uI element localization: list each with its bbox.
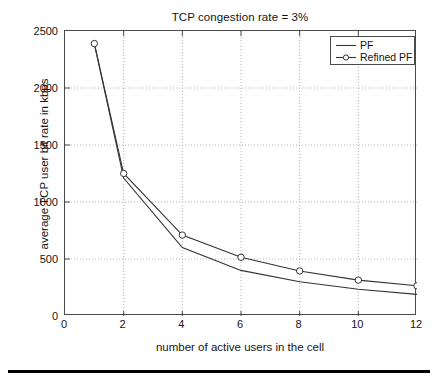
chart-title: TCP congestion rate = 3%: [64, 11, 416, 23]
data-point-marker: [91, 40, 97, 46]
x-axis-label: number of active users in the cell: [64, 341, 416, 353]
y-axis-ticks: [65, 88, 70, 259]
data-point-marker: [414, 283, 417, 289]
data-point-marker: [179, 232, 185, 238]
y-tick-2500: 2500: [34, 26, 58, 37]
legend-line-circle-icon: [334, 52, 358, 63]
data-point-marker: [355, 277, 361, 283]
data-point-marker: [120, 170, 126, 176]
legend-line-icon: [334, 40, 358, 51]
grid-horizontal: [65, 88, 417, 259]
y-tick-1500: 1500: [34, 140, 58, 151]
x-tick-0: 0: [49, 319, 79, 330]
x-tick-2: 2: [108, 319, 138, 330]
legend-entry-pf: PF: [334, 39, 411, 51]
grid-vertical: [124, 31, 359, 316]
y-tick-1000: 1000: [34, 197, 58, 208]
figure-canvas: TCP congestion rate = 3% average TCP use…: [0, 0, 438, 384]
data-point-marker: [296, 268, 302, 274]
y-tick-500: 500: [40, 254, 58, 265]
data-point-marker: [238, 254, 244, 260]
legend-label-refined-pf: Refined PF: [358, 52, 413, 63]
legend-label-pf: PF: [358, 40, 373, 51]
series-line-pf: [94, 44, 417, 295]
plot-svg: [65, 31, 417, 316]
y-tick-2000: 2000: [34, 83, 58, 94]
plot-area: [64, 30, 416, 315]
x-axis-tick-labels: 0 2 4 6 8 10 12: [64, 319, 416, 335]
x-tick-10: 10: [342, 319, 372, 330]
x-tick-6: 6: [225, 319, 255, 330]
legend-entry-refined-pf: Refined PF: [334, 51, 411, 63]
x-tick-8: 8: [284, 319, 314, 330]
chart-legend: PF Refined PF: [330, 36, 415, 65]
series-line-refined-pf: [94, 44, 417, 286]
series-markers-refined-pf: [91, 40, 417, 289]
x-tick-4: 4: [166, 319, 196, 330]
x-tick-12: 12: [401, 319, 431, 330]
bottom-divider-rule: [8, 370, 430, 373]
